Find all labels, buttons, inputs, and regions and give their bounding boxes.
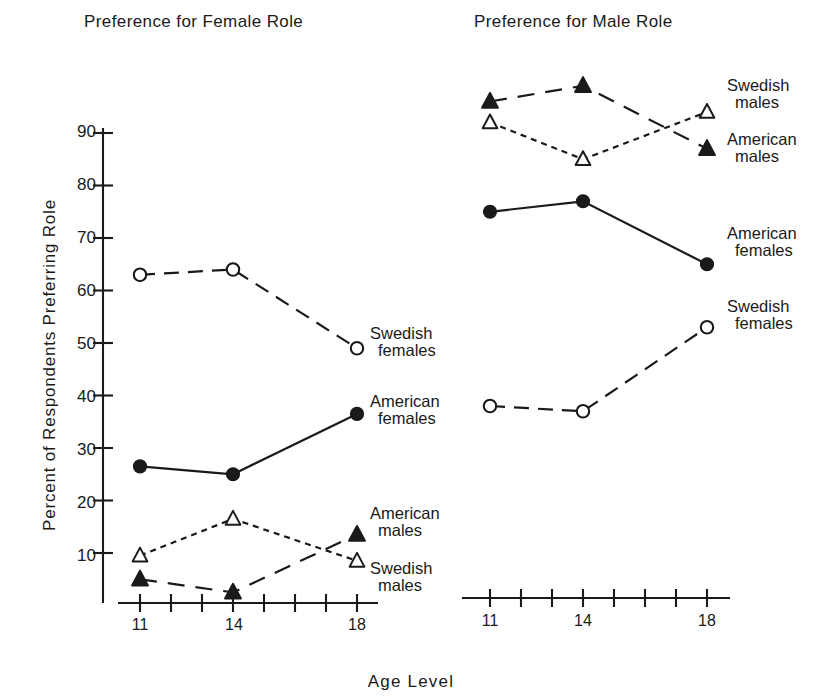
marker-filled-triangle xyxy=(575,77,591,92)
marker-open-circle xyxy=(351,342,363,354)
series-layer xyxy=(132,77,715,598)
marker-open-circle xyxy=(577,405,589,417)
data-point-panel-0-american-males-11 xyxy=(132,571,148,586)
data-point-panel-1-american-males-14 xyxy=(575,77,591,92)
data-point-panel-0-american-females-14 xyxy=(227,468,240,481)
marker-filled-circle xyxy=(227,468,240,481)
data-point-panel-1-swedish-females-14 xyxy=(577,405,589,417)
series-line-panel-0-swedish-females xyxy=(140,270,357,349)
data-point-panel-1-swedish-females-18 xyxy=(701,321,713,333)
data-point-panel-0-swedish-females-14 xyxy=(227,263,239,275)
series-line-panel-0-swedish-males xyxy=(140,519,357,561)
marker-open-circle xyxy=(701,321,713,333)
marker-open-triangle xyxy=(483,115,498,129)
series-line-panel-1-american-females xyxy=(490,201,707,264)
data-point-panel-0-swedish-females-18 xyxy=(351,342,363,354)
marker-filled-circle xyxy=(577,195,590,208)
marker-open-circle xyxy=(227,263,239,275)
plot-canvas xyxy=(0,0,822,698)
marker-open-triangle xyxy=(576,151,591,165)
marker-filled-triangle xyxy=(699,140,715,155)
data-point-panel-1-american-females-18 xyxy=(701,258,714,271)
data-point-panel-0-swedish-females-11 xyxy=(134,269,146,281)
data-point-panel-1-swedish-females-11 xyxy=(484,400,496,412)
data-point-panel-1-american-females-14 xyxy=(577,195,590,208)
series-line-panel-1-swedish-females xyxy=(490,327,707,411)
axes-layer xyxy=(93,128,730,612)
data-point-panel-0-american-males-18 xyxy=(349,526,365,541)
data-point-panel-1-american-females-11 xyxy=(484,205,497,218)
marker-filled-triangle xyxy=(132,571,148,586)
marker-open-triangle xyxy=(226,511,241,525)
data-point-panel-0-swedish-males-14 xyxy=(226,511,241,525)
marker-open-circle xyxy=(484,400,496,412)
data-point-panel-1-swedish-males-18 xyxy=(700,104,715,118)
series-line-panel-1-american-males xyxy=(490,86,707,149)
series-line-panel-1-swedish-males xyxy=(490,112,707,159)
marker-filled-triangle xyxy=(349,526,365,541)
series-line-panel-0-american-females xyxy=(140,414,357,474)
data-point-panel-0-american-females-18 xyxy=(351,407,364,420)
figure-root: Preference for Female Role Preference fo… xyxy=(0,0,822,698)
marker-filled-circle xyxy=(484,205,497,218)
marker-filled-circle xyxy=(701,258,714,271)
marker-filled-circle xyxy=(134,460,147,473)
data-point-panel-1-swedish-males-14 xyxy=(576,151,591,165)
data-point-panel-0-american-females-11 xyxy=(134,460,147,473)
marker-open-triangle xyxy=(700,104,715,118)
data-point-panel-1-american-males-18 xyxy=(699,140,715,155)
marker-filled-circle xyxy=(351,407,364,420)
marker-open-circle xyxy=(134,269,146,281)
data-point-panel-1-swedish-males-11 xyxy=(483,115,498,129)
